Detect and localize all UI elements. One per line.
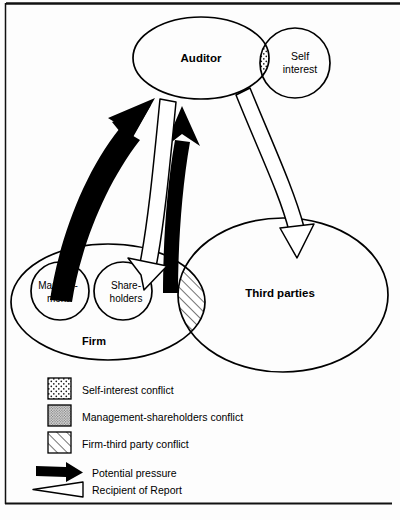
legend-label-firm-third-party-conflict: Firm-third party conflict <box>82 438 189 450</box>
third-parties-label: Third parties <box>245 287 315 299</box>
firm-label: Firm <box>82 335 106 347</box>
shareholders-label-2: holders <box>110 293 143 304</box>
self-interest-label-2: interest <box>283 63 318 75</box>
legend-item-firm-third-party-conflict: Firm-third party conflict <box>48 432 189 453</box>
legend-swatch-solid-black-arrow <box>36 462 83 482</box>
legend-label-self-interest-conflict: Self-interest conflict <box>82 384 174 396</box>
legend-label-recipient-of-report: Recipient of Report <box>92 484 182 496</box>
self-interest-label: Self <box>291 50 309 62</box>
management-label-2: ment <box>47 293 69 304</box>
legend-item-recipient-of-report: Recipient of Report <box>33 482 182 497</box>
legend-item-management-shareholders-conflict: Management-shareholders conflict <box>48 405 243 426</box>
legend-swatch-sparse-dots <box>48 378 71 399</box>
figure-root: Auditor Self interest Manage- ment Share… <box>0 0 400 520</box>
auditor-label: Auditor <box>181 52 222 64</box>
legend-swatch-hollow-white-arrow <box>33 482 83 497</box>
legend-item-self-interest-conflict: Self-interest conflict <box>48 378 174 399</box>
legend-item-potential-pressure: Potential pressure <box>36 462 177 482</box>
legend-label-potential-pressure: Potential pressure <box>92 467 177 479</box>
legend: Self-interest conflict Management-shareh… <box>33 378 243 497</box>
shareholders-label: Share- <box>111 280 141 291</box>
legend-swatch-diagonal-hatch <box>48 432 71 453</box>
management-label: Manage- <box>38 280 77 291</box>
arrow-auditor-to-third-parties-report <box>236 88 314 258</box>
venn-diagram-canvas: Auditor Self interest Manage- ment Share… <box>0 0 400 520</box>
legend-label-management-shareholders-conflict: Management-shareholders conflict <box>82 411 243 423</box>
legend-swatch-dense-dots <box>48 405 71 426</box>
